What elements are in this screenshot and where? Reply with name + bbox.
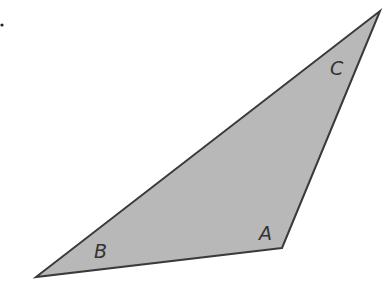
marker-dot (0, 23, 3, 26)
vertex-label-a: A (257, 222, 272, 244)
diagram-canvas: A B C (0, 0, 389, 293)
vertex-label-c: C (330, 57, 344, 79)
triangle-diagram: A B C (0, 0, 389, 293)
vertex-label-b: B (94, 240, 107, 262)
triangle-abc (36, 11, 380, 277)
